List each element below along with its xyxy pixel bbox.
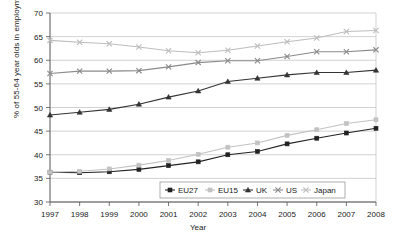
x-tick-label: 1998	[71, 210, 89, 219]
data-point-marker	[167, 158, 171, 162]
legend-label: US	[286, 186, 297, 195]
x-tick-label: 1997	[41, 210, 59, 219]
gridlines	[50, 13, 376, 202]
x-axis-ticks: 1997199819992000200120022003200420052006…	[41, 202, 385, 219]
y-tick-label: 50	[34, 104, 43, 113]
data-point-marker	[315, 128, 319, 132]
data-point-marker	[168, 188, 172, 192]
series-uk	[47, 68, 378, 117]
x-tick-label: 2005	[278, 210, 296, 219]
chart-legend: EU27EU15UKUSJapan	[160, 182, 345, 198]
x-tick-label: 2008	[367, 210, 385, 219]
data-point-marker	[78, 169, 82, 173]
series-eu15	[48, 118, 378, 174]
y-tick-label: 55	[34, 80, 43, 89]
data-point-marker	[226, 145, 230, 149]
x-tick-label: 2006	[308, 210, 326, 219]
x-tick-label: 2002	[189, 210, 207, 219]
x-tick-label: 2003	[219, 210, 237, 219]
data-point-marker	[344, 122, 348, 126]
data-point-marker	[167, 164, 171, 168]
x-tick-label: 2007	[337, 210, 355, 219]
series-japan	[47, 28, 378, 55]
y-tick-label: 60	[34, 56, 43, 65]
plot-area: 303540455055606570 199719981999200020012…	[0, 0, 396, 243]
data-point-marker	[137, 163, 141, 167]
series-layer	[47, 28, 378, 175]
legend-label: UK	[256, 186, 268, 195]
legend-label: Japan	[314, 186, 336, 195]
legend-label: EU15	[218, 186, 239, 195]
data-point-marker	[255, 149, 259, 153]
data-point-marker	[374, 126, 378, 130]
y-tick-label: 30	[34, 198, 43, 207]
x-tick-label: 2000	[130, 210, 148, 219]
data-point-marker	[137, 167, 141, 171]
data-point-marker	[285, 142, 289, 146]
data-point-marker	[107, 167, 111, 171]
x-tick-label: 2001	[160, 210, 178, 219]
y-tick-label: 70	[34, 9, 43, 18]
x-tick-label: 1999	[100, 210, 118, 219]
y-tick-label: 45	[34, 127, 43, 136]
data-point-marker	[196, 160, 200, 164]
y-tick-label: 65	[34, 33, 43, 42]
data-point-marker	[196, 152, 200, 156]
line-chart: % of 55-64 year olds in employment Year …	[0, 0, 396, 243]
data-point-marker	[344, 131, 348, 135]
legend-label: EU27	[178, 186, 199, 195]
data-point-marker	[374, 118, 378, 122]
data-point-marker	[255, 141, 259, 145]
x-tick-label: 2004	[249, 210, 267, 219]
data-point-marker	[315, 136, 319, 140]
data-point-marker	[226, 153, 230, 157]
y-tick-label: 35	[34, 174, 43, 183]
data-point-marker	[285, 133, 289, 137]
data-point-marker	[48, 170, 52, 174]
data-point-marker	[208, 188, 212, 192]
y-tick-label: 40	[34, 151, 43, 160]
